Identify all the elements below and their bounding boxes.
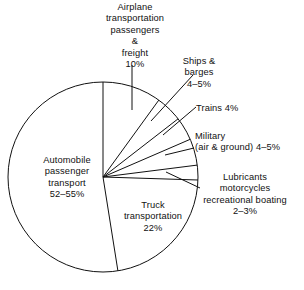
label-truck-percent: 22%	[107, 223, 199, 234]
label-ships: Ships & barges 4–5%	[168, 56, 230, 90]
label-automobile-line-3: transport	[22, 178, 112, 189]
label-truck-line-1: Truck	[107, 200, 199, 211]
label-lubricants-percent: 2–3%	[186, 206, 304, 217]
label-ships-percent: 4–5%	[168, 79, 230, 90]
label-truck: Truck transportation 22%	[107, 200, 199, 234]
label-ships-line-2: barges	[168, 67, 230, 78]
label-lubricants-line-1: Lubricants	[186, 172, 304, 183]
label-ships-line-1: Ships &	[168, 56, 230, 67]
label-airplane-percent: 10%	[93, 59, 177, 70]
label-lubricants-line-3: recreational boating	[186, 195, 304, 206]
label-automobile-percent: 52–55%	[22, 189, 112, 200]
label-airplane-line-2: transportation	[93, 13, 177, 24]
slice-separator-ships-trains	[103, 119, 178, 177]
leader-line-military	[165, 148, 194, 155]
label-airplane: Airplane transportation passengers & fre…	[93, 2, 177, 70]
label-automobile-line-1: Automobile	[22, 155, 112, 166]
slice-separator-lubricants-truck	[103, 177, 198, 180]
label-trains-text: Trains 4%	[196, 103, 262, 114]
label-truck-line-2: transportation	[107, 211, 199, 222]
label-lubricants: Lubricants motorcycles recreational boat…	[186, 172, 304, 218]
label-airplane-line-1: Airplane	[93, 2, 177, 13]
pie-chart-figure: Airplane transportation passengers & fre…	[0, 0, 304, 290]
label-airplane-line-5: freight	[93, 48, 177, 59]
label-lubricants-line-2: motorcycles	[186, 183, 304, 194]
label-military-line-1: Military	[195, 131, 303, 142]
label-airplane-line-4: &	[93, 36, 177, 47]
leader-line-trains	[163, 107, 196, 135]
label-military-line-2: (air & ground) 4–5%	[195, 142, 303, 153]
label-automobile: Automobile passenger transport 52–55%	[22, 155, 112, 201]
label-automobile-line-2: passenger	[22, 166, 112, 177]
label-airplane-line-3: passengers	[93, 25, 177, 36]
label-trains: Trains 4%	[196, 103, 262, 114]
label-military: Military (air & ground) 4–5%	[195, 131, 303, 154]
